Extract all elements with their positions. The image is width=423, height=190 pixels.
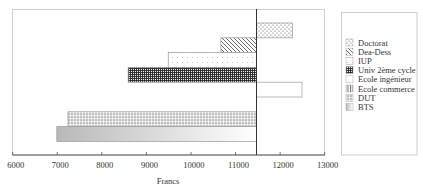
bar-dea-dess [221, 38, 257, 53]
bar-chart: 600070008000900010000110001200013000 Fra… [0, 0, 423, 190]
bar-doctorat [257, 23, 293, 38]
legend-swatch [346, 67, 353, 74]
legend-swatch [346, 39, 353, 46]
legend-swatch [346, 94, 353, 101]
x-tick-label: 8000 [96, 160, 113, 170]
x-axis-title: Francs [157, 176, 180, 186]
x-tick-label: 13000 [317, 160, 338, 170]
x-tick-label: 11000 [228, 160, 249, 170]
legend-swatch [346, 85, 353, 92]
bars-group [57, 23, 302, 141]
legend-swatch [346, 48, 353, 55]
legend-swatch [346, 57, 353, 64]
bar-univ-2-me-cycle [128, 67, 256, 82]
bar-iup [168, 53, 256, 68]
legend-label: BTS [358, 102, 374, 112]
x-tick-label: 9000 [141, 160, 158, 170]
x-tick-label: 7000 [52, 160, 69, 170]
x-tick-label: 12000 [273, 160, 294, 170]
x-tick-label: 6000 [7, 160, 24, 170]
legend-swatch [346, 76, 353, 83]
legend-swatch [346, 103, 353, 110]
bar-ecole-ing-nieur [257, 82, 302, 97]
x-tick-label: 10000 [183, 160, 204, 170]
bar-dut [68, 112, 257, 127]
bar-bts [57, 127, 257, 142]
